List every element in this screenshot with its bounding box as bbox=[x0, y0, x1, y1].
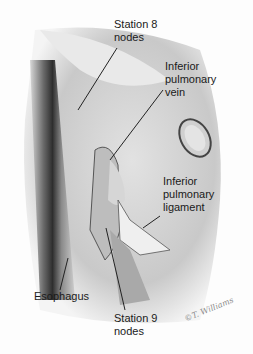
label-inferior-pulmonary-vein: Inferior pulmonary vein bbox=[165, 60, 216, 99]
label-station-8-nodes: Station 8 nodes bbox=[114, 18, 157, 44]
label-inferior-pulmonary-ligament: Inferior pulmonary ligament bbox=[163, 175, 214, 214]
label-esophagus: Esophagus bbox=[34, 290, 89, 303]
anatomy-illustration: Station 8 nodes Inferior pulmonary vein … bbox=[0, 0, 253, 354]
label-station-9-nodes: Station 9 nodes bbox=[114, 312, 157, 338]
